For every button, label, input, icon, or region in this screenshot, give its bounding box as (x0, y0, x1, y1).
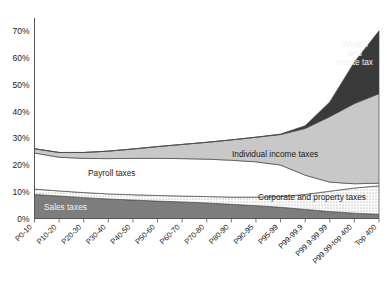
chart-canvas: 0%10%20%30%40%50%60%70% P0-10P10-20P20-3… (0, 0, 387, 286)
y-tick-label: 20% (12, 160, 29, 170)
y-tick-label: 30% (12, 133, 29, 143)
x-tick-label: P40-50 (109, 223, 133, 247)
y-axis-labels: 0%10%20%30%40%50%60%70% (12, 26, 29, 223)
series-annotation-label: estate tax (337, 57, 374, 67)
x-tick-label: P80-90 (207, 223, 231, 247)
y-tick-label: 10% (12, 187, 29, 197)
x-tick-label: P30-40 (84, 223, 108, 247)
stacked-areas-group (35, 31, 380, 219)
series-annotation-label: Sales taxes (44, 202, 87, 212)
series-annotation-label: Individual income taxes (232, 149, 318, 159)
x-tick-label: P70-80 (182, 223, 206, 247)
y-tick-label: 0% (17, 214, 30, 224)
x-tick-label: P0-10 (13, 223, 34, 244)
x-tick-label: P20-30 (59, 223, 83, 247)
x-axis-labels: P0-10P10-20P20-30P30-40P40-50P50-60P60-7… (13, 223, 378, 266)
x-tick-label: P10-20 (35, 223, 59, 247)
series-annotation-label: Payroll taxes (88, 168, 136, 178)
x-tick-label: P50-60 (133, 223, 157, 247)
x-tick-label: P90-95 (232, 223, 256, 247)
series-annotation-label: Corporate and property taxes (258, 192, 366, 202)
x-tick-label: P60-70 (158, 223, 182, 247)
y-tick-label: 50% (12, 80, 29, 90)
y-tick-label: 40% (12, 107, 29, 117)
y-tick-label: 70% (12, 26, 29, 36)
y-tick-label: 60% (12, 53, 29, 63)
x-tick-label: P95-99 (256, 223, 280, 247)
tax-rate-area-chart: 0%10%20%30%40%50%60%70% P0-10P10-20P20-3… (0, 0, 387, 286)
x-tick-label: Top 400 (353, 223, 378, 248)
